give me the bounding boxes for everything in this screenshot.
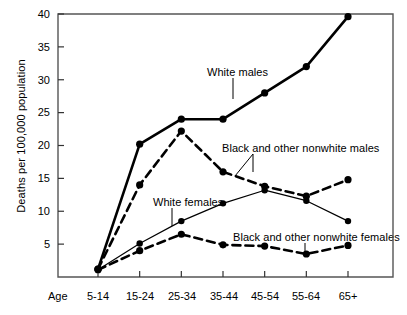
series-line-1 — [98, 131, 348, 269]
data-point-marker — [178, 231, 185, 238]
data-point-marker — [178, 127, 185, 134]
data-point-marker — [344, 242, 351, 249]
data-point-marker — [344, 13, 351, 20]
data-point-marker — [345, 218, 351, 224]
data-point-marker — [136, 141, 143, 148]
chart-plot-area — [0, 0, 407, 315]
data-point-marker — [136, 240, 142, 246]
data-point-marker — [219, 116, 226, 123]
series-line-3 — [98, 234, 348, 269]
data-point-marker — [303, 198, 309, 204]
chart-figure: Deaths per 100,000 population 40 35 30 2… — [0, 0, 407, 315]
data-point-marker — [220, 200, 226, 206]
data-point-marker — [136, 247, 143, 254]
series-line-0 — [98, 17, 348, 270]
data-point-marker — [136, 181, 143, 188]
annotation-leader-line-slanted — [235, 154, 253, 176]
data-point-marker — [178, 116, 185, 123]
data-point-marker — [261, 242, 268, 249]
data-point-marker — [303, 250, 310, 257]
data-point-marker — [219, 168, 226, 175]
data-point-marker — [178, 218, 184, 224]
data-point-marker — [261, 187, 267, 193]
data-point-marker — [303, 63, 310, 70]
data-point-marker — [261, 89, 268, 96]
data-point-marker — [219, 241, 226, 248]
data-point-marker — [94, 266, 101, 273]
data-point-marker — [344, 176, 351, 183]
